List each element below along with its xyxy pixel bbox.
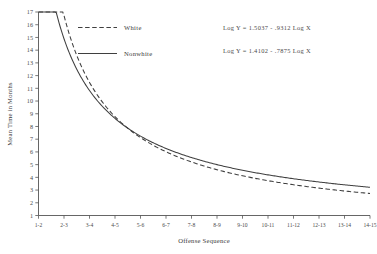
x-tick-label: 6-7 [162, 222, 170, 228]
y-tick-label: 16 [27, 21, 33, 28]
y-tick-label: 4 [30, 174, 33, 181]
y-axis-title: Mean Time in Months [6, 82, 13, 146]
x-tick-label: 3-4 [86, 222, 94, 228]
y-tick-label: 9 [30, 110, 33, 117]
x-axis-title: Offense Sequence [178, 237, 230, 244]
x-tick-label: 13-14 [338, 222, 351, 228]
chart-svg: 1234567891011121314151617 1-22-33-44-55-… [0, 0, 377, 254]
x-axis-ticks: 1-22-33-44-55-66-77-88-99-1010-1111-1212… [35, 216, 377, 228]
x-tick-label: 9-10 [237, 222, 247, 228]
y-tick-label: 2 [30, 199, 33, 206]
equation-annotations: Log Y = 1.5037 - .9312 Log X Log Y = 1.4… [223, 24, 311, 54]
x-tick-label: 14-15 [363, 222, 376, 228]
equation-white: Log Y = 1.5037 - .9312 Log X [223, 24, 311, 31]
series-line-white [39, 12, 371, 193]
y-tick-label: 11 [27, 85, 33, 92]
x-tick-label: 2-3 [60, 222, 68, 228]
x-tick-label: 8-9 [213, 222, 221, 228]
x-tick-label: 12-13 [312, 222, 325, 228]
y-tick-label: 3 [30, 186, 33, 193]
y-tick-label: 15 [27, 34, 33, 41]
equation-nonwhite: Log Y = 1.4102 - .7875 Log X [223, 47, 311, 54]
x-tick-label: 10-11 [262, 222, 275, 228]
y-axis-ticks: 1234567891011121314151617 [27, 8, 39, 219]
y-tick-label: 17 [27, 8, 33, 15]
y-tick-label: 14 [27, 46, 33, 53]
chart-legend: White Nonwhite [78, 24, 152, 57]
y-tick-label: 7 [30, 135, 33, 142]
x-tick-label: 1-2 [35, 222, 43, 228]
legend-label-white: White [124, 24, 142, 31]
y-tick-label: 1 [30, 212, 33, 219]
y-tick-label: 8 [30, 123, 33, 130]
x-tick-label: 4-5 [111, 222, 119, 228]
chart-figure: 1234567891011121314151617 1-22-33-44-55-… [0, 0, 377, 254]
y-tick-label: 10 [27, 97, 33, 104]
y-tick-label: 13 [27, 59, 33, 66]
y-tick-label: 5 [30, 161, 33, 168]
y-tick-label: 6 [30, 148, 33, 155]
series-line-nonwhite [39, 12, 371, 187]
x-tick-label: 5-6 [137, 222, 145, 228]
x-tick-label: 7-8 [188, 222, 196, 228]
y-tick-label: 12 [27, 72, 33, 79]
x-tick-label: 11-12 [287, 222, 300, 228]
legend-label-nonwhite: Nonwhite [124, 50, 152, 57]
